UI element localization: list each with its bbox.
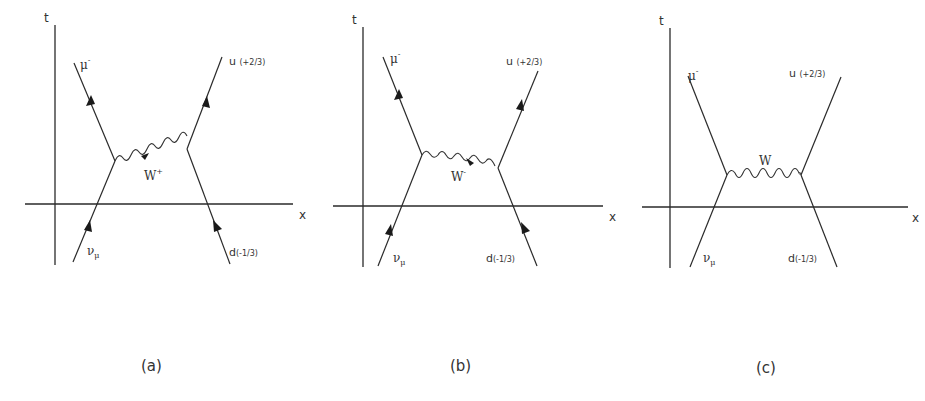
w-boson-label: W- [451,168,466,184]
arrow-icon [84,220,92,232]
down-quark-label: d(-1/3) [788,252,817,265]
arrow-icon [516,99,524,111]
diagram-a: t x μ- u (+2/3) W+ νμ d(-1/3) [25,11,306,265]
w-boson-label: W [759,154,772,168]
down-quark-label: d(-1/3) [486,252,515,265]
t-axis-label: t [659,14,664,28]
up-quark-label: u (+2/3) [229,55,265,68]
muon-label: μ- [688,67,699,83]
muon-line [74,63,115,161]
t-axis-label: t [352,13,357,27]
up-quark-line [498,71,538,168]
x-axis-label: x [912,211,919,225]
arrow-icon [86,95,95,106]
arrow-icon [466,158,474,166]
caption-b: (b) [450,357,471,375]
neutrino-label: νμ [703,251,716,267]
down-quark-line [498,168,537,266]
down-quark-label: d(-1/3) [229,246,258,259]
muon-line [383,57,422,155]
arrow-icon [394,89,403,100]
up-quark-line [801,77,841,175]
w-boson-line [115,132,187,161]
diagram-b: t x μ- u (+2/3) W- νμ d(-1/3) [333,13,616,267]
t-axis-label: t [44,11,49,25]
diagram-c: t x μ- u (+2/3) W νμ d(-1/3) [642,14,919,268]
w-boson-line [727,169,800,178]
caption-c: (c) [756,359,776,377]
muon-line [688,76,727,175]
muon-label: μ- [80,56,91,72]
muon-label: μ- [390,50,401,66]
x-axis-label: x [299,208,306,222]
neutrino-line [378,155,422,266]
feynman-diagrams-figure: t x μ- u (+2/3) W+ νμ d(-1/3) t x [0,0,925,401]
caption-a: (a) [141,357,162,375]
neutrino-label: νμ [393,251,406,267]
down-quark-line [801,175,837,267]
up-quark-label: u (+2/3) [506,55,542,68]
arrow-icon [521,222,530,234]
w-boson-line [422,151,495,166]
arrow-icon [385,224,393,236]
w-boson-label: W+ [144,167,163,183]
x-axis-label: x [609,210,616,224]
neutrino-label: νμ [87,244,100,260]
arrow-icon [213,220,222,232]
down-quark-line [187,149,230,264]
up-quark-label: u (+2/3) [789,67,825,80]
